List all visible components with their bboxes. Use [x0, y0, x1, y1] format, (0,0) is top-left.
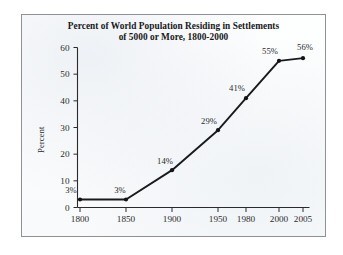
- x-tick-label-1850: 1850: [117, 214, 136, 224]
- data-marker-1800: [78, 197, 82, 201]
- data-point-label-2005: 56%: [297, 42, 313, 52]
- y-tick-label-40: 40: [60, 96, 70, 106]
- y-tick-label-30: 30: [60, 123, 70, 133]
- data-point-label-1800: 3%: [65, 185, 76, 195]
- y-tick-group: [74, 48, 78, 208]
- data-point-label-1950: 29%: [201, 116, 217, 126]
- y-tick-label-0: 0: [65, 203, 70, 213]
- y-tick-label-50: 50: [60, 69, 70, 79]
- y-tick-label-20: 20: [60, 149, 70, 159]
- plot-area: 0102030405060 18001850190019501980200020…: [22, 15, 327, 238]
- data-marker-group: [78, 56, 305, 202]
- x-tick-label-1800: 1800: [71, 214, 90, 224]
- x-tick-label-1980: 1980: [237, 214, 256, 224]
- x-tick-label-2000: 2000: [270, 214, 289, 224]
- data-marker-1900: [170, 168, 174, 172]
- y-tick-label-60: 60: [60, 43, 70, 53]
- x-tick-label-2005: 2005: [294, 214, 313, 224]
- data-marker-1980: [244, 96, 248, 100]
- data-point-label-2000: 55%: [262, 46, 278, 56]
- x-tick-label-1950: 1950: [209, 214, 228, 224]
- data-marker-2000: [277, 59, 281, 63]
- data-marker-1850: [124, 197, 128, 201]
- x-tick-label-1900: 1900: [163, 214, 182, 224]
- x-tick-group: [80, 208, 303, 213]
- data-point-label-1850: 3%: [114, 185, 125, 195]
- data-marker-2005: [301, 56, 305, 60]
- chart-frame: Percent of World Population Residing in …: [21, 14, 326, 237]
- data-point-label-1980: 41%: [229, 83, 245, 93]
- chart-page: Percent of World Population Residing in …: [0, 0, 343, 255]
- x-tick-label-group: 1800185019001950198020002005: [71, 214, 313, 224]
- data-line-series: [80, 58, 303, 199]
- data-marker-1950: [216, 128, 220, 132]
- data-point-label-1900: 14%: [157, 156, 173, 166]
